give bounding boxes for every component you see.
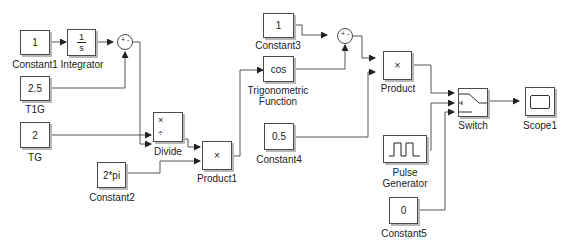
trig-function-value: cos [271, 64, 287, 75]
integrator-numerator: 1 [77, 33, 86, 43]
constant1-value: 1 [32, 37, 38, 48]
switch-label: Switch [458, 120, 487, 132]
scope-screen-icon [530, 95, 550, 109]
pulse-generator-block[interactable] [383, 135, 427, 163]
constant4-label: Constant4 [256, 154, 302, 166]
product1-sign: × [214, 150, 220, 161]
product1-label: Product1 [197, 173, 237, 185]
t1g-label: T1G [25, 104, 44, 116]
constant2-block[interactable]: 2*pi [97, 162, 126, 188]
constant3-value: 1 [276, 20, 282, 31]
constant5-value: 0 [401, 205, 407, 216]
constant2-label: Constant2 [89, 192, 135, 204]
divide-divide-sign: ÷ [158, 127, 163, 140]
product-label: Product [381, 83, 415, 95]
integrator-block[interactable]: 1 s [67, 29, 96, 56]
constant1-label: Constant1 [12, 59, 58, 71]
t1g-block[interactable]: 2.5 [20, 76, 50, 101]
switch-icon [459, 89, 487, 116]
switch-block[interactable] [458, 88, 488, 117]
constant3-label: Constant3 [255, 40, 301, 52]
integrator-label: Integrator [61, 59, 104, 71]
scope1-block[interactable] [525, 87, 555, 116]
pulse-generator-label-line2: Generator [382, 178, 427, 190]
trig-function-block[interactable]: cos [263, 56, 294, 82]
constant5-label: Constant5 [381, 228, 427, 240]
trig-function-label-line2: Function [259, 96, 297, 108]
constant4-block[interactable]: 0.5 [264, 123, 294, 150]
divide-multiply-sign: × [158, 114, 163, 127]
t1g-value: 2.5 [28, 83, 42, 94]
product-sign: × [395, 60, 401, 71]
tg-label: TG [28, 152, 42, 164]
integrator-denominator: s [79, 43, 84, 53]
divide-label: Divide [154, 146, 182, 158]
constant4-value: 0.5 [272, 131, 286, 142]
sum1-block[interactable]: + - [117, 34, 133, 50]
constant2-value: 2*pi [103, 170, 120, 181]
tg-block[interactable]: 2 [20, 122, 50, 148]
tg-value: 2 [32, 130, 38, 141]
product-block[interactable]: × [383, 51, 412, 80]
divide-block[interactable]: × ÷ [153, 112, 183, 142]
constant1-block[interactable]: 1 [20, 30, 50, 55]
pulse-wave-icon [387, 139, 423, 159]
scope1-label: Scope1 [523, 120, 557, 132]
sum2-block[interactable]: + - [337, 28, 353, 44]
constant3-block[interactable]: 1 [263, 13, 294, 38]
sum2-signs: + - [341, 30, 349, 37]
constant5-block[interactable]: 0 [389, 197, 418, 224]
product1-block[interactable]: × [202, 141, 232, 170]
sum1-signs: + - [121, 36, 129, 43]
